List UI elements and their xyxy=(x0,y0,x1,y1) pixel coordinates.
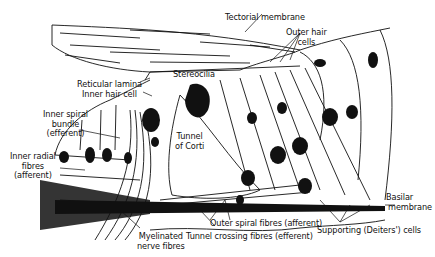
label-stereocilia: Stereocilia xyxy=(173,70,215,80)
label-outer-hair-cells: Outer hair cells xyxy=(286,28,327,47)
label-inner-radial-fibres: Inner radial fibres (afferent) xyxy=(10,152,56,181)
label-basilar-membrane: Basilar membrane xyxy=(386,193,432,212)
label-tectorial-membrane: Tectorial membrane xyxy=(225,13,305,23)
label-supporting-deiters-cells: Supporting (Deiters') cells xyxy=(317,226,421,236)
label-tunnel-crossing-fibres: Tunnel crossing fibres (efferent) xyxy=(186,232,313,242)
label-outer-spiral-fibres: Outer spiral fibres (afferent) xyxy=(210,219,322,229)
label-tunnel-of-corti: Tunnel of Corti xyxy=(175,132,204,151)
label-inner-hair-cell: Inner hair cell xyxy=(82,90,137,100)
label-myelinated-nerve-fibres: Myelinated nerve fibres xyxy=(137,232,185,251)
label-inner-spiral-bundle: Inner spiral bundle (efferent) xyxy=(43,110,88,139)
organ-of-corti-diagram: Tectorial membrane Outer hair cells Ster… xyxy=(0,0,435,257)
